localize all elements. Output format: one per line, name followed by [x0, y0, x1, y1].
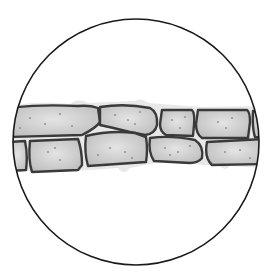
cytoplasm-granule [54, 147, 56, 149]
cytoplasm-granule [239, 149, 241, 151]
cytoplasm-granule [59, 113, 61, 115]
cytoplasm-granule [179, 127, 181, 129]
plant-cell [160, 110, 194, 136]
plant-cell [196, 110, 250, 138]
plant-cell [253, 111, 268, 138]
cytoplasm-granule [225, 127, 227, 129]
plant-cell [8, 141, 27, 171]
cytoplasm-granule [97, 154, 99, 156]
plant-cell [206, 139, 265, 165]
cytoplasm-granule [114, 114, 116, 116]
cytoplasm-granule [59, 159, 61, 161]
plant-cell [150, 137, 203, 163]
cytoplasm-granule [164, 147, 166, 149]
cytoplasm-granule [217, 121, 219, 123]
cytoplasm-granule [139, 111, 141, 113]
cytoplasm-granule [134, 123, 136, 125]
cytoplasm-granule [19, 127, 21, 129]
microscope-illustration: Plant epidermal cells viewed through a m… [0, 0, 271, 277]
cytoplasm-granule [131, 157, 133, 159]
cell-strip [8, 99, 268, 172]
cytoplasm-granule [29, 117, 31, 119]
cytoplasm-granule [224, 151, 226, 153]
cytoplasm-granule [44, 123, 46, 125]
plant-cell [85, 132, 147, 166]
cytoplasm-granule [71, 125, 73, 127]
cytoplasm-granule [47, 151, 49, 153]
cytoplasm-granule [171, 119, 173, 121]
plant-cell [29, 139, 82, 172]
cytoplasm-granule [184, 116, 186, 118]
plant-cell [8, 105, 100, 137]
cytoplasm-granule [124, 151, 126, 153]
cytoplasm-granule [127, 119, 129, 121]
cytoplasm-granule [109, 147, 111, 149]
cytoplasm-granule [169, 154, 171, 156]
cytoplasm-granule [231, 117, 233, 119]
cytoplasm-granule [177, 151, 179, 153]
microscope-view [0, 0, 271, 277]
cytoplasm-granule [189, 145, 191, 147]
cytoplasm-granule [249, 157, 251, 159]
